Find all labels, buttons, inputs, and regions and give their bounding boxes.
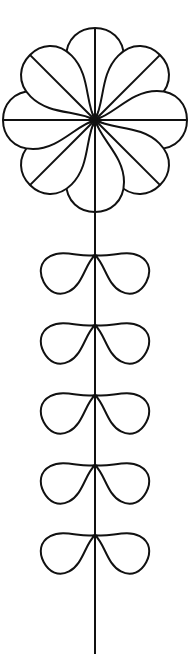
flower-head [3, 28, 187, 212]
drawing-canvas: Flower line drawing Single flower head w… [0, 0, 189, 654]
flower-illustration [0, 0, 189, 654]
flower-center [3, 28, 187, 212]
